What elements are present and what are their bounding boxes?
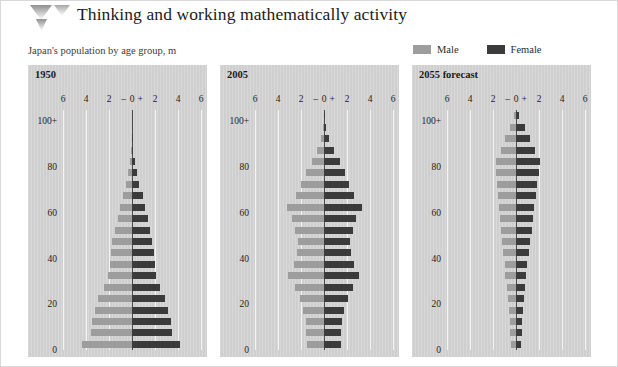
bar-female <box>324 272 359 279</box>
x-tick-label: 4 <box>368 94 373 104</box>
x-tick-label: 2 <box>153 94 158 104</box>
bar-female <box>516 249 529 256</box>
panel-title: 2005 <box>227 69 248 80</box>
bar-female <box>516 204 534 211</box>
x-tick-label: – <box>505 94 510 104</box>
legend-swatch-female-icon <box>487 45 505 54</box>
bar-male <box>306 329 324 336</box>
legend-swatch-male-icon <box>413 45 431 54</box>
y-tick-label: 80 <box>432 162 442 172</box>
bar-male <box>499 204 516 211</box>
bar-female <box>132 192 143 199</box>
bar-female <box>324 169 345 176</box>
bar-female <box>516 318 522 325</box>
bar-male <box>507 284 516 291</box>
bar-female <box>132 147 133 154</box>
bar-female <box>516 124 525 131</box>
gridline <box>539 110 540 350</box>
bar-female <box>516 272 526 279</box>
bar-female <box>516 181 537 188</box>
legend-label-female: Female <box>511 44 542 55</box>
x-tick-label: 6 <box>199 94 204 104</box>
bar-male <box>307 341 324 348</box>
bar-female <box>324 238 350 245</box>
bar-female <box>516 158 540 165</box>
y-tick-label: 20 <box>48 299 58 309</box>
y-tick-label: 40 <box>432 254 442 264</box>
bar-female <box>324 192 354 199</box>
bar-male <box>82 341 132 348</box>
bar-female <box>324 147 334 154</box>
gridline <box>470 110 471 350</box>
gridline <box>493 110 494 350</box>
bar-female <box>324 204 362 211</box>
bar-male <box>306 318 324 325</box>
legend-item-female: Female <box>487 44 542 55</box>
legend-item-male: Male <box>413 44 459 55</box>
bar-male <box>110 261 132 268</box>
gridline <box>86 110 87 350</box>
y-tick-label: 80 <box>240 162 250 172</box>
gridline <box>562 110 563 350</box>
chart-panel-1: 1950642–0+246020406080100+ <box>28 65 207 357</box>
bar-female <box>132 272 156 279</box>
bar-male <box>123 192 132 199</box>
bar-male <box>295 227 324 234</box>
bar-female <box>132 284 160 291</box>
x-tick-label: 4 <box>276 94 281 104</box>
bar-female <box>516 238 530 245</box>
bar-male <box>98 295 132 302</box>
chart-panels: 1950642–0+246020406080100+2005642–0+2460… <box>28 65 591 357</box>
x-tick-label: 6 <box>61 94 66 104</box>
bar-female <box>324 135 329 142</box>
gridline <box>370 110 371 350</box>
x-tick-label: 6 <box>391 94 396 104</box>
y-tick-label: 0 <box>436 345 441 355</box>
bar-female <box>516 147 535 154</box>
gridline <box>278 110 279 350</box>
bar-female <box>132 181 139 188</box>
bar-female <box>132 215 148 222</box>
bar-female <box>516 295 524 302</box>
bar-female <box>132 318 171 325</box>
gridline <box>393 110 394 350</box>
bar-male <box>296 192 324 199</box>
bar-male <box>91 329 132 336</box>
bar-female <box>324 158 340 165</box>
bar-female <box>324 261 354 268</box>
bar-male <box>115 227 132 234</box>
bar-male <box>298 238 324 245</box>
x-tick-label: 2 <box>537 94 542 104</box>
y-tick-label: 60 <box>240 208 250 218</box>
bar-male <box>112 238 132 245</box>
bar-female <box>324 318 342 325</box>
bar-male <box>111 249 132 256</box>
bar-male <box>496 169 516 176</box>
bar-female <box>132 307 168 314</box>
x-tick-label: 2 <box>491 94 496 104</box>
bar-male <box>502 238 516 245</box>
bar-female <box>516 261 527 268</box>
bar-female <box>516 329 522 336</box>
bar-female <box>132 341 180 348</box>
y-tick-label: 0 <box>244 345 249 355</box>
x-tick-label: – <box>313 94 318 104</box>
gridline <box>109 110 110 350</box>
y-tick-label: 40 <box>240 254 250 264</box>
x-tick-label: + <box>330 94 335 104</box>
x-tick-label: 4 <box>84 94 89 104</box>
plot-area: 642–0+246020406080100+ <box>255 110 393 350</box>
x-tick-label: 2 <box>299 94 304 104</box>
bar-female <box>324 307 344 314</box>
page-header: Thinking and working mathematically acti… <box>1 1 618 37</box>
bar-female <box>324 181 349 188</box>
bar-female <box>516 284 525 291</box>
bar-female <box>132 238 152 245</box>
chart-legend: Male Female <box>413 44 541 55</box>
x-tick-label: 4 <box>468 94 473 104</box>
bar-female <box>516 307 523 314</box>
bar-male <box>300 295 324 302</box>
gridline <box>447 110 448 350</box>
bar-male <box>496 158 516 165</box>
chart-subtitle: Japan's population by age group, m <box>28 45 176 56</box>
